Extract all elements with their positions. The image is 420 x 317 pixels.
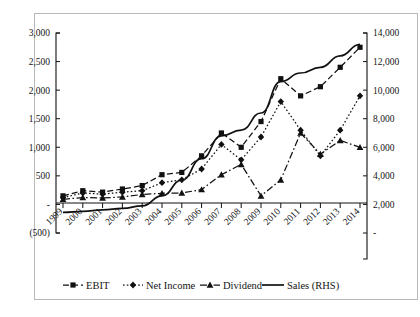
data-point-triangle <box>207 282 214 288</box>
x-axis-tick-label: 2007 <box>202 206 223 227</box>
data-point-diamond <box>130 282 136 289</box>
x-axis-tick-label: 2005 <box>163 206 184 227</box>
data-point-square <box>298 93 303 98</box>
x-axis-tick-label: 2003 <box>123 206 144 227</box>
data-point-diamond <box>198 166 204 173</box>
right-axis-tick-label: 4,000 <box>373 171 395 181</box>
data-point-triangle <box>238 161 245 167</box>
right-axis-tick-label: 8,000 <box>373 114 395 124</box>
data-point-triangle <box>218 171 225 177</box>
data-point-square <box>338 65 343 70</box>
chart-container: (500)-5001,0001,5002,0002,5003,000-2,000… <box>0 0 420 317</box>
x-axis-tick-label: 2013 <box>321 206 342 227</box>
legend-item-sales-rhs[interactable]: Sales (RHS) <box>262 280 340 292</box>
data-point-square <box>159 172 164 177</box>
legend-label: Net Income <box>146 280 196 291</box>
right-axis-line <box>363 33 367 259</box>
x-axis-tick-label: 2014 <box>341 206 362 227</box>
right-axis-tick-label: 2,000 <box>373 200 395 210</box>
right-axis-tick-label: 10,000 <box>373 86 399 96</box>
x-axis-tick-label: 2010 <box>262 206 283 227</box>
series-line <box>63 133 360 199</box>
data-point-square <box>278 76 283 81</box>
x-axis-tick-label: 2012 <box>301 206 322 227</box>
left-axis-tick-label: (500) <box>29 228 50 239</box>
data-point-triangle <box>337 137 344 143</box>
left-axis-tick-label: 2,000 <box>29 86 51 96</box>
legend-item-dividend[interactable]: Dividend <box>200 280 263 291</box>
data-point-diamond <box>258 134 264 141</box>
series-line <box>63 44 360 212</box>
x-axis-tick-label: 2004 <box>143 206 164 227</box>
legend-item-ebit[interactable]: EBIT <box>63 280 110 291</box>
left-axis-tick-label: 1,000 <box>29 143 51 153</box>
data-point-triangle <box>277 176 284 182</box>
data-point-square <box>70 282 75 287</box>
x-axis-tick-label: 2000 <box>64 206 85 227</box>
series-line <box>63 47 360 196</box>
legend-label: Dividend <box>223 280 263 291</box>
left-axis-tick-label: 500 <box>36 171 51 181</box>
x-axis-tick-label: 2008 <box>222 206 243 227</box>
series-sales-rhs <box>63 44 360 212</box>
data-point-triangle <box>317 151 324 157</box>
legend-label: EBIT <box>86 280 110 291</box>
data-point-square <box>239 145 244 150</box>
chart-legend: EBITNet IncomeDividendSales (RHS) <box>63 280 340 292</box>
data-point-diamond <box>159 179 165 186</box>
legend-item-net-income[interactable]: Net Income <box>123 280 196 291</box>
chart-plot-area: (500)-5001,0001,5002,0002,5003,000-2,000… <box>0 0 420 317</box>
left-axis-tick-label: 3,000 <box>29 28 51 38</box>
left-axis-tick-label: - <box>47 200 50 210</box>
data-point-triangle <box>258 192 265 198</box>
left-axis-tick-label: 1,500 <box>29 114 51 124</box>
x-axis-tick-label: 2011 <box>282 206 302 226</box>
right-axis-tick-label: 6,000 <box>373 143 395 153</box>
data-point-square <box>179 170 184 175</box>
right-axis-tick-label: - <box>373 228 376 238</box>
data-point-square <box>318 84 323 89</box>
left-axis-tick-label: 2,500 <box>29 57 51 67</box>
data-point-square <box>219 130 224 135</box>
data-point-square <box>258 119 263 124</box>
x-axis-tick-label: 2009 <box>242 206 263 227</box>
data-point-diamond <box>357 92 363 99</box>
legend-label: Sales (RHS) <box>287 280 340 292</box>
right-axis-tick-label: 14,000 <box>373 28 399 38</box>
data-point-triangle <box>178 190 185 196</box>
data-point-diamond <box>337 127 343 134</box>
x-axis-tick-label: 2006 <box>183 206 204 227</box>
right-axis-tick-label: 12,000 <box>373 57 399 67</box>
